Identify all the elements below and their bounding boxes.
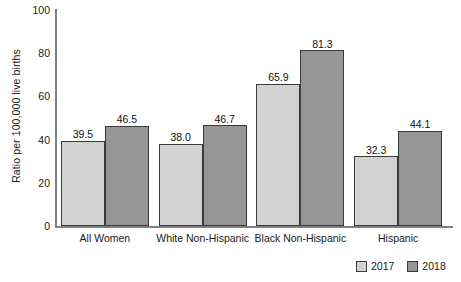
bar-group-2: 65.981.3 — [252, 10, 350, 226]
category-label-0: All Women — [56, 232, 154, 244]
legend-item-2018[interactable]: 2018 — [407, 261, 445, 272]
legend-swatch-dark-icon — [407, 261, 418, 272]
bar-group-0: 39.546.5 — [56, 10, 154, 226]
bar-value-label: 38.0 — [170, 132, 190, 143]
legend-label-2017: 2017 — [371, 261, 394, 272]
y-tick-0: 0 — [18, 221, 50, 232]
category-label-3: Hispanic — [349, 232, 447, 244]
bar-2017-all-women[interactable]: 39.5 — [61, 141, 105, 226]
bar-chart: Ratio per 100,000 live births 100 80 60 … — [0, 0, 461, 282]
bar-value-label: 32.3 — [366, 145, 386, 156]
bar-2017-white-non-hispanic[interactable]: 38.0 — [159, 144, 203, 226]
bar-2017-hispanic[interactable]: 32.3 — [354, 156, 398, 226]
bar-slot: 44.1 — [398, 10, 442, 226]
bar-group-3: 32.344.1 — [349, 10, 447, 226]
bar-group-1: 38.046.7 — [154, 10, 252, 226]
bar-slot: 32.3 — [354, 10, 398, 226]
bar-groups: 39.546.538.046.765.981.332.344.1 — [56, 10, 447, 226]
bar-value-label: 39.5 — [73, 129, 93, 140]
legend-swatch-light-icon — [356, 261, 367, 272]
y-tick-60: 60 — [18, 91, 50, 102]
y-tick-40: 40 — [18, 134, 50, 145]
x-axis-category-labels: All WomenWhite Non-HispanicBlack Non-His… — [56, 232, 447, 244]
bar-value-label: 65.9 — [268, 72, 288, 83]
legend: 2017 2018 — [356, 261, 446, 272]
bar-2017-black-non-hispanic[interactable]: 65.9 — [256, 84, 300, 226]
y-tick-80: 80 — [18, 48, 50, 59]
bar-value-label: 46.7 — [214, 114, 234, 125]
bar-slot: 46.7 — [203, 10, 247, 226]
y-tick-20: 20 — [18, 178, 50, 189]
bar-slot: 46.5 — [105, 10, 149, 226]
bar-value-label: 46.5 — [117, 114, 137, 125]
x-axis-line — [55, 226, 453, 228]
legend-item-2017[interactable]: 2017 — [356, 261, 394, 272]
bar-2018-hispanic[interactable]: 44.1 — [398, 131, 442, 226]
category-label-1: White Non-Hispanic — [154, 232, 252, 244]
bar-2018-black-non-hispanic[interactable]: 81.3 — [300, 50, 344, 226]
bar-slot: 65.9 — [256, 10, 300, 226]
y-tick-100: 100 — [18, 5, 50, 16]
bar-slot: 39.5 — [61, 10, 105, 226]
bar-slot: 38.0 — [159, 10, 203, 226]
bar-2018-all-women[interactable]: 46.5 — [105, 126, 149, 226]
bar-value-label: 81.3 — [312, 39, 332, 50]
bar-2018-white-non-hispanic[interactable]: 46.7 — [203, 125, 247, 226]
legend-label-2018: 2018 — [422, 261, 445, 272]
bar-slot: 81.3 — [300, 10, 344, 226]
category-label-2: Black Non-Hispanic — [252, 232, 350, 244]
bar-value-label: 44.1 — [410, 119, 430, 130]
